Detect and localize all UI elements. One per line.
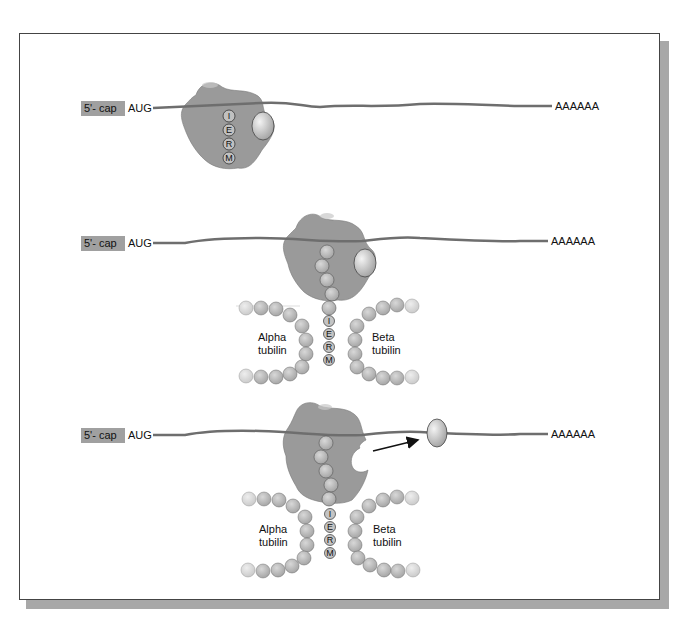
tubilin-label: tubilin: [372, 344, 401, 356]
start-codon: AUG: [128, 429, 152, 441]
peptide-chain: I E R M: [325, 509, 336, 559]
svg-text:I: I: [228, 111, 231, 121]
cap-label: 5'- cap: [84, 102, 117, 114]
svg-text:E: E: [327, 522, 333, 532]
released-factor: [427, 419, 447, 447]
svg-text:M: M: [225, 153, 233, 163]
alpha-tubilin-chain: [241, 492, 314, 578]
svg-text:I: I: [328, 316, 331, 326]
start-codon: AUG: [128, 102, 152, 114]
trna-factor: [354, 249, 376, 277]
polya-tail: AAAAAA: [551, 428, 596, 440]
svg-text:I: I: [329, 509, 332, 519]
diagram-canvas: 5'- cap AUG AAAAAA I E R M 5'- cap AUG A…: [0, 0, 696, 631]
svg-text:R: R: [327, 535, 334, 545]
beta-label: Beta: [372, 331, 396, 343]
movement-arrow: [373, 440, 418, 451]
peptide-chain: I E R M: [324, 316, 335, 366]
polya-tail: AAAAAA: [551, 235, 596, 247]
beta-label: Beta: [373, 523, 397, 535]
tubilin-label: tubilin: [258, 344, 287, 356]
alpha-label: Alpha: [258, 331, 287, 343]
svg-text:R: R: [326, 342, 333, 352]
panel-2: 5'- cap AUG AAAAAA I E R M: [81, 213, 596, 385]
start-codon: AUG: [128, 237, 152, 249]
polya-tail: AAAAAA: [555, 100, 600, 112]
trna-factor: [252, 112, 274, 140]
alpha-label: Alpha: [259, 523, 288, 535]
panel-1: 5'- cap AUG AAAAAA I E R M: [81, 82, 600, 169]
svg-text:E: E: [326, 329, 332, 339]
svg-text:M: M: [325, 355, 333, 365]
svg-text:E: E: [226, 125, 232, 135]
cap-label: 5'- cap: [84, 237, 117, 249]
tubilin-label: tubilin: [259, 536, 288, 548]
tubilin-label: tubilin: [373, 536, 402, 548]
svg-text:R: R: [226, 139, 233, 149]
svg-text:M: M: [326, 548, 334, 558]
panel-3: 5'- cap AUG AAAAAA I E R M: [81, 403, 596, 578]
cap-label: 5'- cap: [84, 429, 117, 441]
